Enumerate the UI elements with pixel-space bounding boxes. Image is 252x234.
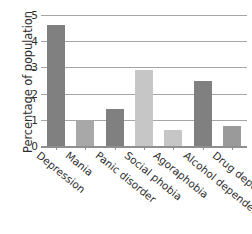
bar — [106, 109, 124, 146]
bar — [135, 70, 153, 146]
y-axis-tick-label: 5 — [24, 9, 38, 21]
y-axis-tick-label: 1 — [24, 114, 38, 126]
y-axis-tick-label: 0 — [24, 140, 38, 152]
bar-chart: Percentage of population 012345 Depressi… — [0, 0, 252, 234]
bar — [223, 126, 241, 146]
bar — [76, 120, 94, 146]
y-axis-tick-label: 2 — [24, 88, 38, 100]
plot-area — [41, 15, 247, 146]
x-axis-tick-labels: DepressionManiaPanic disorderSocial phob… — [41, 149, 252, 234]
bar — [47, 25, 65, 146]
y-axis-tick-label: 4 — [24, 35, 38, 47]
bar — [194, 81, 212, 147]
y-axis-tick-label: 3 — [24, 61, 38, 73]
y-axis-tick-labels: 012345 — [24, 15, 38, 146]
bar — [164, 130, 182, 146]
bars-group — [41, 15, 247, 146]
